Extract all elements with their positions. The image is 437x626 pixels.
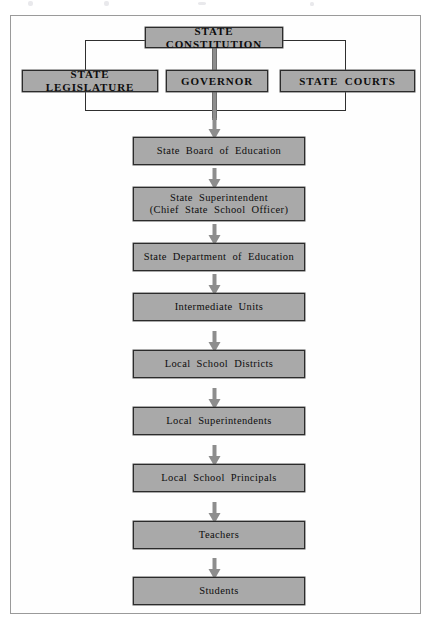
- box-students[interactable]: Students: [133, 577, 305, 605]
- box-label: GOVERNOR: [181, 75, 253, 88]
- box-state-legislature[interactable]: STATE LEGISLATURE: [22, 70, 158, 92]
- box-local-school-principals[interactable]: Local School Principals: [133, 464, 305, 492]
- spine-governor-merge: [212, 92, 217, 120]
- box-label-line-2: (Chief State School Officer): [150, 204, 289, 216]
- box-state-constitution[interactable]: STATE CONSTITUTION: [145, 27, 283, 48]
- box-state-board-of-education[interactable]: State Board of Education: [133, 137, 305, 165]
- box-state-department-of-education[interactable]: State Department of Education: [133, 243, 305, 271]
- diagram-canvas: STATE CONSTITUTION STATE LEGISLATURE GOV…: [0, 0, 437, 626]
- connector-constitution-to-right: [283, 40, 345, 41]
- box-governor[interactable]: GOVERNOR: [166, 70, 268, 92]
- scan-artifact-strip: [0, 0, 437, 11]
- box-intermediate-units[interactable]: Intermediate Units: [133, 293, 305, 321]
- box-state-superintendent[interactable]: State Superintendent (Chief State School…: [133, 187, 305, 221]
- box-label: Local School Principals: [161, 472, 277, 484]
- box-label: Students: [199, 585, 238, 597]
- box-label: STATE COURTS: [299, 75, 395, 88]
- box-label: STATE LEGISLATURE: [23, 68, 157, 93]
- spine-constitution-governor: [212, 47, 217, 70]
- box-local-superintendents[interactable]: Local Superintendents: [133, 407, 305, 435]
- box-label: State Department of Education: [144, 251, 294, 263]
- box-label-line-1: State Superintendent: [170, 192, 268, 204]
- box-label: STATE CONSTITUTION: [146, 25, 282, 50]
- connector-constitution-to-left: [85, 40, 146, 41]
- box-label: Intermediate Units: [175, 301, 264, 313]
- box-local-school-districts[interactable]: Local School Districts: [133, 350, 305, 378]
- box-label: State Board of Education: [157, 145, 281, 157]
- box-teachers[interactable]: Teachers: [133, 521, 305, 549]
- box-label: Teachers: [199, 529, 239, 541]
- box-label: Local School Districts: [165, 358, 274, 370]
- box-state-courts[interactable]: STATE COURTS: [280, 70, 415, 92]
- box-label: Local Superintendents: [166, 415, 272, 427]
